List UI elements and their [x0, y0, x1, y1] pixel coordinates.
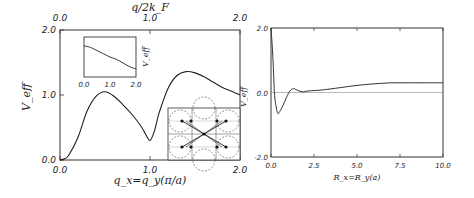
- left-x-axis-label: q_x=q_y(π/a): [114, 174, 187, 187]
- inset-x-tick: 0.0: [78, 81, 90, 89]
- right-y-tick: 2.0: [257, 25, 269, 33]
- left-y-tick: 1.0: [42, 90, 57, 100]
- left-top-x-tick: 1.0: [143, 13, 158, 23]
- left-y-tick: 0.0: [42, 155, 57, 165]
- figure: 0.01.02.00.01.02.00.01.02.0 q_x=q_y(π/a)…: [0, 0, 474, 198]
- right-y-tick: -2.0: [254, 154, 268, 162]
- left-right-y-axis-label: V_eff: [239, 86, 248, 108]
- right-y-tick: 0.0: [257, 90, 269, 98]
- left-top-x-tick: 2.0: [233, 13, 248, 23]
- left-plot: 0.01.02.00.01.02.00.01.02.0 q_x=q_y(π/a)…: [20, 1, 248, 187]
- left-y-axis-label: V_eff: [20, 81, 33, 111]
- right-x-tick: 0.0: [265, 162, 277, 170]
- left-top-axis-label: q/2k_F: [131, 1, 169, 14]
- right-x-tick: 7.5: [394, 162, 406, 170]
- inset-y-axis-label: V_eff: [141, 46, 150, 68]
- right-x-tick: 2.5: [308, 162, 320, 170]
- right-curve: [271, 28, 443, 114]
- inset-x-tick: 1.0: [104, 81, 116, 89]
- right-x-axis-label: R_x=R_y(a): [333, 173, 381, 182]
- left-x-tick: 0.0: [53, 165, 68, 175]
- left-top-x-tick: 0.0: [53, 13, 68, 23]
- right-x-tick: 5.0: [351, 162, 363, 170]
- inset-plot: 0.01.02.0 V_eff: [78, 37, 150, 89]
- left-x-tick: 2.0: [233, 165, 248, 175]
- right-x-tick: 10.0: [435, 162, 451, 170]
- inset-x-tick: 2.0: [130, 81, 142, 89]
- brillouin-zone-diagram: [168, 97, 240, 171]
- left-y-tick: 2.0: [42, 25, 57, 35]
- right-plot: 0.02.55.07.510.0-2.00.02.0 R_x=R_y(a): [254, 25, 451, 182]
- right-ticks: 0.02.55.07.510.0-2.00.02.0: [254, 25, 451, 170]
- inset-ticks: 0.01.02.0: [78, 81, 142, 89]
